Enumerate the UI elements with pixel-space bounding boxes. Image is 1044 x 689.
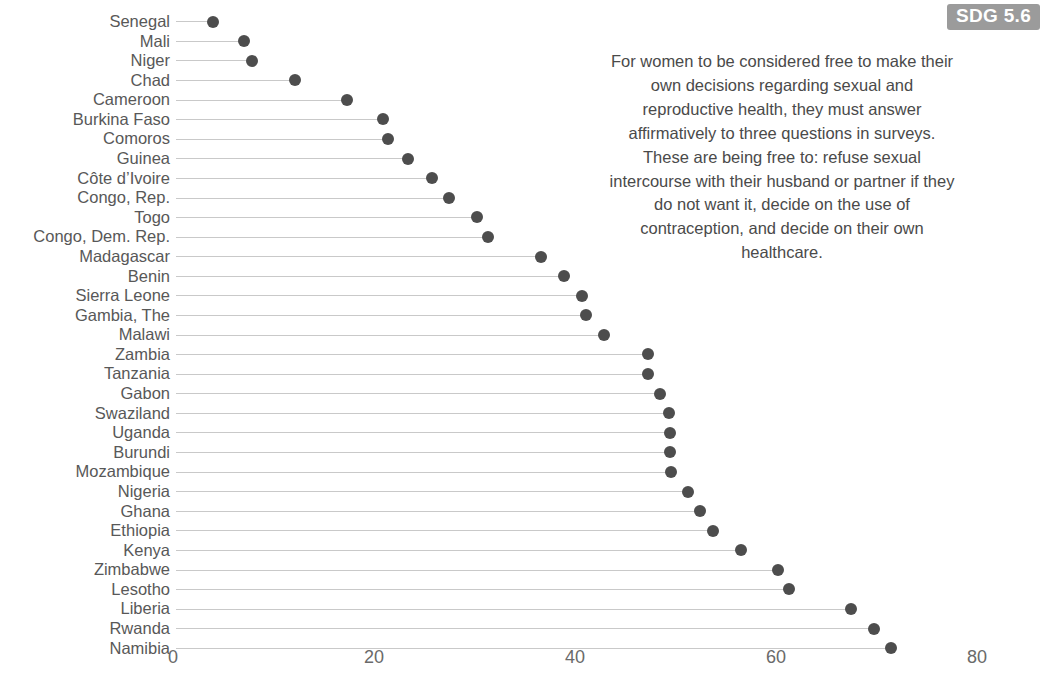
country-label: Congo, Dem. Rep.	[0, 227, 170, 247]
dot-plot-row: Côte d’Ivoire	[0, 169, 1044, 189]
value-connector-line	[176, 491, 688, 492]
value-dot	[783, 583, 795, 595]
value-connector-line	[176, 315, 586, 316]
value-connector-line	[176, 452, 670, 453]
value-dot	[580, 309, 592, 321]
value-connector-line	[176, 628, 874, 629]
value-dot	[238, 35, 250, 47]
value-dot	[868, 623, 880, 635]
value-connector-line	[176, 256, 541, 257]
value-dot	[694, 505, 706, 517]
value-connector-line	[176, 158, 408, 159]
dot-plot-row: Mali	[0, 32, 1044, 52]
dot-plot-row: Burkina Faso	[0, 110, 1044, 130]
value-dot	[664, 446, 676, 458]
value-dot	[207, 16, 219, 28]
value-dot	[289, 74, 301, 86]
country-label: Congo, Rep.	[0, 188, 170, 208]
value-dot	[558, 270, 570, 282]
value-dot	[443, 192, 455, 204]
dot-plot-row: Nigeria	[0, 482, 1044, 502]
dot-plot-row: Burundi	[0, 443, 1044, 463]
dot-plot-row: Madagascar	[0, 247, 1044, 267]
value-dot	[426, 172, 438, 184]
country-label: Malawi	[0, 325, 170, 345]
value-connector-line	[176, 335, 604, 336]
dot-plot-row: Gambia, The	[0, 306, 1044, 326]
x-axis-tick-label: 80	[967, 645, 987, 669]
dot-plot-row: Malawi	[0, 325, 1044, 345]
value-dot	[598, 329, 610, 341]
dot-plot-row: Mozambique	[0, 462, 1044, 482]
value-connector-line	[176, 198, 449, 199]
dot-plot-row: Rwanda	[0, 619, 1044, 639]
country-label: Mali	[0, 32, 170, 52]
value-connector-line	[176, 570, 778, 571]
value-connector-line	[176, 119, 383, 120]
country-label: Zimbabwe	[0, 560, 170, 580]
value-connector-line	[176, 393, 660, 394]
dot-plot-row: Togo	[0, 208, 1044, 228]
dot-plot-row: Zimbabwe	[0, 560, 1044, 580]
country-label: Burkina Faso	[0, 110, 170, 130]
country-label: Tanzania	[0, 364, 170, 384]
dot-plot-row: Lesotho	[0, 580, 1044, 600]
dot-plot-row: Uganda	[0, 423, 1044, 443]
value-dot	[772, 564, 784, 576]
country-label: Togo	[0, 208, 170, 228]
value-dot	[707, 525, 719, 537]
value-dot	[663, 407, 675, 419]
country-label: Lesotho	[0, 580, 170, 600]
country-label: Ghana	[0, 502, 170, 522]
x-axis-tick-label: 40	[565, 645, 585, 669]
value-dot	[735, 544, 747, 556]
value-dot	[576, 290, 588, 302]
x-axis-tick-label: 20	[364, 645, 384, 669]
country-label: Mozambique	[0, 462, 170, 482]
chart-container: SDG 5.6 For women to be considered free …	[0, 0, 1044, 689]
dot-plot-row: Congo, Dem. Rep.	[0, 227, 1044, 247]
value-dot	[482, 231, 494, 243]
country-label: Benin	[0, 267, 170, 287]
country-label: Cameroon	[0, 90, 170, 110]
dot-plot-row: Senegal	[0, 12, 1044, 32]
x-axis-tick-label: 0	[168, 645, 178, 669]
value-connector-line	[176, 609, 851, 610]
country-label: Madagascar	[0, 247, 170, 267]
value-connector-line	[176, 60, 252, 61]
value-connector-line	[176, 139, 388, 140]
value-dot	[642, 368, 654, 380]
country-label: Senegal	[0, 12, 170, 32]
plot-area: SenegalMaliNigerChadCameroonBurkina Faso…	[0, 0, 1044, 689]
dot-plot-row: Kenya	[0, 541, 1044, 561]
country-label: Burundi	[0, 443, 170, 463]
dot-plot-row: Benin	[0, 267, 1044, 287]
value-connector-line	[176, 511, 700, 512]
value-dot	[654, 388, 666, 400]
value-connector-line	[176, 237, 488, 238]
country-label: Comoros	[0, 129, 170, 149]
value-connector-line	[176, 354, 648, 355]
country-label: Kenya	[0, 541, 170, 561]
value-connector-line	[176, 295, 582, 296]
value-dot	[377, 113, 389, 125]
value-connector-line	[176, 80, 295, 81]
country-label: Rwanda	[0, 619, 170, 639]
dot-plot-row: Guinea	[0, 149, 1044, 169]
value-dot	[682, 486, 694, 498]
country-label: Chad	[0, 71, 170, 91]
value-dot	[382, 133, 394, 145]
country-label: Côte d’Ivoire	[0, 169, 170, 189]
country-label: Swaziland	[0, 404, 170, 424]
country-label: Zambia	[0, 345, 170, 365]
country-label: Guinea	[0, 149, 170, 169]
dot-plot-row: Zambia	[0, 345, 1044, 365]
value-connector-line	[176, 374, 648, 375]
dot-plot-row: Ethiopia	[0, 521, 1044, 541]
value-connector-line	[176, 217, 477, 218]
dot-plot-row: Ghana	[0, 502, 1044, 522]
dot-plot-row: Tanzania	[0, 364, 1044, 384]
dot-plot-row: Swaziland	[0, 404, 1044, 424]
dot-plot-row: Cameroon	[0, 90, 1044, 110]
value-dot	[535, 251, 547, 263]
